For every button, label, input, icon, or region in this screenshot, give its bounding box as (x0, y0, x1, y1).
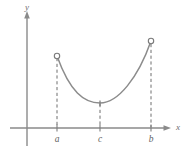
x-axis-arrowhead (164, 125, 172, 131)
x-axis-label: x (175, 122, 180, 132)
y-axis-group (24, 11, 30, 146)
x-axis-group (10, 125, 171, 131)
y-axis-arrowhead (24, 11, 30, 19)
point-label-a: a (55, 134, 60, 144)
point-label-c: c (98, 134, 103, 144)
convex-function-plot: y x a c b (0, 0, 186, 151)
y-axis-label: y (24, 2, 29, 12)
function-curve (57, 41, 151, 103)
open-circle-point-b (148, 38, 153, 43)
open-circle-point-a (54, 53, 59, 58)
figure-container: y x a c b (0, 0, 186, 151)
point-label-b: b (149, 134, 154, 144)
